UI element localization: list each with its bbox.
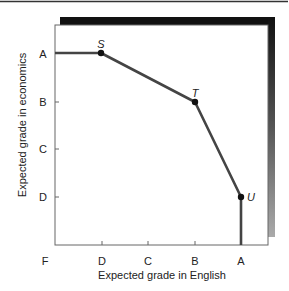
y-tick-c: C [39, 143, 47, 155]
x-axis-title: Expected grade in English [98, 269, 226, 281]
x-tick-d: D [98, 255, 106, 267]
y-tick-d: D [39, 191, 47, 203]
point-u-label: U [247, 191, 255, 203]
point-u-marker [238, 194, 244, 200]
y-tick-a: A [39, 48, 47, 60]
point-s-label: S [97, 38, 105, 50]
plot-area [55, 25, 268, 245]
x-tick-f: F [42, 255, 49, 267]
point-t-marker [192, 99, 198, 105]
x-tick-a: A [237, 255, 245, 267]
chart-figure: S T U A B C D F D C B A Expected grade i… [0, 0, 289, 291]
frame-shadow-right [268, 17, 275, 237]
y-axis-title: Expected grade in economics [16, 52, 28, 197]
frame-shadow-top [60, 17, 275, 25]
y-tick-b: B [39, 96, 46, 108]
x-tick-c: C [144, 255, 152, 267]
x-tick-b: B [191, 255, 198, 267]
point-s-marker [98, 50, 104, 56]
